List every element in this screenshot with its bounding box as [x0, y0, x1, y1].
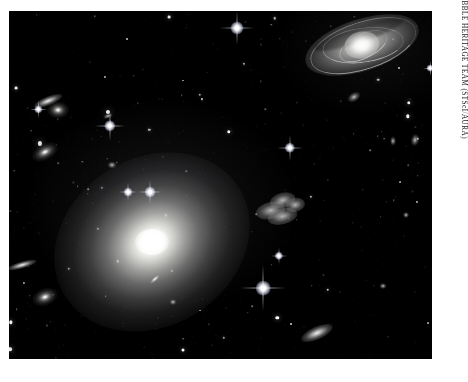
star-core	[231, 22, 244, 35]
diffraction-spike-horizontal	[240, 288, 286, 289]
hubble-photograph	[9, 11, 432, 359]
star-core	[104, 120, 115, 131]
diffraction-spike-vertical	[150, 180, 151, 204]
star-core	[256, 281, 271, 296]
diffraction-spike-vertical	[430, 61, 431, 76]
diffraction-spike-horizontal	[277, 148, 303, 149]
diffraction-star-left	[95, 111, 125, 141]
diffraction-spike-horizontal	[119, 192, 137, 193]
diffraction-spike-horizontal	[271, 256, 287, 257]
diffraction-spike-vertical	[110, 111, 111, 141]
star-core	[426, 64, 432, 72]
diffraction-spike-horizontal	[220, 28, 254, 29]
diffraction-spike-vertical	[38, 101, 39, 118]
diffraction-spike-vertical	[290, 135, 291, 161]
star-core	[275, 252, 283, 260]
diffraction-spike-horizontal	[30, 109, 47, 110]
diffraction-star-mid-right	[271, 248, 287, 264]
diffraction-star-far-right	[423, 61, 433, 76]
star-core	[145, 187, 156, 198]
diffraction-spike-vertical	[128, 183, 129, 201]
star-core	[124, 188, 133, 197]
diffraction-spike-horizontal	[138, 192, 162, 193]
star-core	[285, 143, 295, 153]
diffraction-star-center	[138, 180, 162, 204]
diffraction-spike-horizontal	[95, 126, 125, 127]
star-core	[34, 105, 42, 113]
bright-star-layer	[9, 11, 432, 359]
diffraction-star-bright	[240, 265, 286, 311]
diffraction-star-top	[220, 11, 254, 45]
diffraction-spike-vertical	[279, 248, 280, 264]
diffraction-star-upper-mid	[277, 135, 303, 161]
diffraction-spike-horizontal	[423, 68, 433, 69]
diffraction-spike-vertical	[237, 11, 238, 45]
diffraction-star-inner	[119, 183, 137, 201]
diffraction-spike-vertical	[263, 265, 264, 311]
diffraction-star-upper-left	[30, 101, 47, 118]
image-credit-line: NASA, ESA, AND THE HUBBLE HERITAGE TEAM …	[460, 0, 467, 139]
